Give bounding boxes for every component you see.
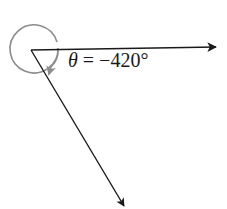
angle-label: θ = −420°: [68, 50, 148, 70]
terminal-side-ray: [31, 50, 124, 206]
angle-value: −420°: [99, 49, 148, 71]
angle-diagram: [0, 0, 227, 209]
theta-symbol: θ: [68, 49, 78, 71]
equals-sign: =: [78, 49, 99, 71]
